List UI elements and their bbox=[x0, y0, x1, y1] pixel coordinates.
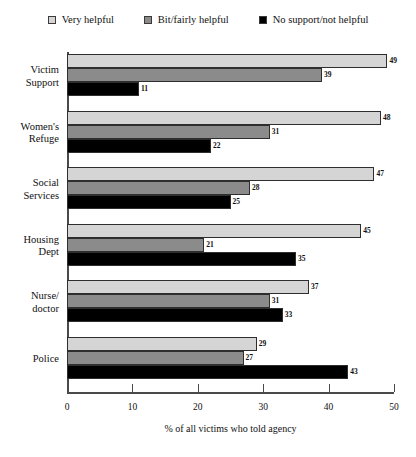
bar[interactable]: 27 bbox=[67, 351, 244, 365]
x-axis-tick-label: 50 bbox=[389, 402, 399, 412]
bar[interactable]: 31 bbox=[67, 125, 270, 139]
bar-value-label: 27 bbox=[246, 354, 254, 362]
category-label-line: Housing bbox=[0, 233, 59, 246]
chart-legend: Very helpfulBit/fairly helpfulNo support… bbox=[0, 15, 416, 26]
x-axis-tick-mark bbox=[67, 384, 68, 392]
x-axis-line bbox=[67, 392, 394, 394]
bar[interactable]: 29 bbox=[67, 337, 257, 351]
category-label: SocialServices bbox=[0, 177, 59, 202]
bar-value-label: 25 bbox=[233, 198, 241, 206]
x-axis-tick-label: 10 bbox=[128, 402, 138, 412]
bar-value-label: 49 bbox=[389, 57, 397, 65]
x-axis-tick-mark bbox=[394, 384, 395, 392]
legend-label: Very helpful bbox=[62, 15, 114, 26]
bar-group: Women'sRefuge483122 bbox=[67, 111, 394, 155]
bar-value-label: 37 bbox=[311, 283, 319, 291]
x-axis-tick-label: 0 bbox=[65, 402, 70, 412]
category-label-line: Social bbox=[0, 177, 59, 190]
legend-swatch-icon bbox=[48, 16, 56, 24]
bar-value-label: 21 bbox=[206, 241, 214, 249]
bar-group: VictimSupport493911 bbox=[67, 54, 394, 98]
bar[interactable]: 22 bbox=[67, 139, 211, 153]
bar[interactable]: 45 bbox=[67, 224, 361, 238]
bar[interactable]: 39 bbox=[67, 68, 322, 82]
bar[interactable]: 28 bbox=[67, 181, 250, 195]
category-label-line: Refuge bbox=[0, 133, 59, 146]
bar[interactable]: 35 bbox=[67, 252, 296, 266]
x-axis-tick-mark bbox=[329, 384, 330, 392]
x-axis-tick-mark bbox=[263, 384, 264, 392]
category-label-line: doctor bbox=[0, 302, 59, 315]
bar-value-label: 47 bbox=[376, 170, 384, 178]
bar-group: HousingDept452135 bbox=[67, 224, 394, 268]
bar-value-label: 22 bbox=[213, 142, 221, 150]
bar-value-label: 48 bbox=[383, 114, 391, 122]
category-label: VictimSupport bbox=[0, 64, 59, 89]
x-axis-tick-mark bbox=[132, 384, 133, 392]
bar[interactable]: 11 bbox=[67, 82, 139, 96]
category-label: Nurse/doctor bbox=[0, 290, 59, 315]
bar[interactable]: 21 bbox=[67, 238, 204, 252]
bar[interactable]: 47 bbox=[67, 167, 374, 181]
bar[interactable]: 33 bbox=[67, 308, 283, 322]
legend-item[interactable]: Bit/fairly helpful bbox=[144, 15, 229, 26]
category-label-line: Women's bbox=[0, 120, 59, 133]
category-label-line: Victim bbox=[0, 64, 59, 77]
x-axis-title: % of all victims who told agency bbox=[67, 423, 394, 434]
bar[interactable]: 49 bbox=[67, 54, 387, 68]
bar-value-label: 45 bbox=[363, 227, 371, 235]
bar-value-label: 33 bbox=[285, 311, 293, 319]
category-label-line: Services bbox=[0, 189, 59, 202]
bar[interactable]: 43 bbox=[67, 365, 348, 379]
legend-swatch-icon bbox=[259, 16, 267, 24]
bar-value-label: 43 bbox=[350, 368, 358, 376]
bar-value-label: 11 bbox=[141, 85, 148, 93]
grouped-bar-chart: Very helpfulBit/fairly helpfulNo support… bbox=[0, 0, 416, 457]
legend-swatch-icon bbox=[144, 16, 152, 24]
bar-value-label: 39 bbox=[324, 71, 332, 79]
x-axis-tick-label: 40 bbox=[324, 402, 334, 412]
bar[interactable]: 31 bbox=[67, 294, 270, 308]
category-label-line: Dept bbox=[0, 246, 59, 259]
bar[interactable]: 37 bbox=[67, 280, 309, 294]
category-label: Women'sRefuge bbox=[0, 120, 59, 145]
legend-item[interactable]: No support/not helpful bbox=[259, 15, 369, 26]
legend-label: Bit/fairly helpful bbox=[158, 15, 229, 26]
bar[interactable]: 25 bbox=[67, 195, 231, 209]
bar-group: Police292743 bbox=[67, 337, 394, 381]
category-label-line: Police bbox=[0, 352, 59, 365]
bar-group: SocialServices472825 bbox=[67, 167, 394, 211]
category-label-line: Nurse/ bbox=[0, 290, 59, 303]
category-label: Police bbox=[0, 352, 59, 365]
x-axis-tick-mark bbox=[198, 384, 199, 392]
bar-group: Nurse/doctor373133 bbox=[67, 280, 394, 324]
bar-value-label: 31 bbox=[272, 297, 280, 305]
bar-value-label: 35 bbox=[298, 255, 306, 263]
category-label-line: Support bbox=[0, 76, 59, 89]
bar-value-label: 31 bbox=[272, 128, 280, 136]
legend-item[interactable]: Very helpful bbox=[48, 15, 114, 26]
plot-area: 01020304050 VictimSupport493911Women'sRe… bbox=[67, 52, 394, 392]
x-axis-tick-label: 20 bbox=[193, 402, 203, 412]
bar-value-label: 28 bbox=[252, 184, 260, 192]
bar[interactable]: 48 bbox=[67, 111, 381, 125]
category-label: HousingDept bbox=[0, 233, 59, 258]
x-axis-tick-label: 30 bbox=[258, 402, 268, 412]
bar-value-label: 29 bbox=[259, 340, 267, 348]
legend-label: No support/not helpful bbox=[273, 15, 369, 26]
